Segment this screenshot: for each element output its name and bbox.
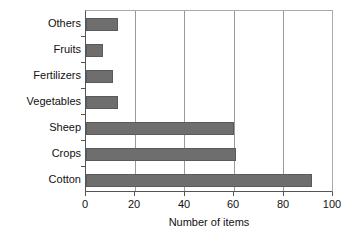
x-axis-tick-label-20: 20 (114, 198, 154, 211)
gridline-80 (283, 11, 284, 191)
bar-row-cotton (86, 167, 312, 193)
x-axis-title: Number of items (85, 216, 333, 229)
y-axis-tick-label-cotton: Cotton (3, 173, 81, 185)
bar-vegetables[interactable] (86, 96, 118, 109)
y-axis-tick-label-fertilizers: Fertilizers (3, 69, 81, 81)
plot-area (85, 10, 333, 192)
x-axis-tick-label-60: 60 (213, 198, 253, 211)
y-axis-tick-label-crops: Crops (3, 147, 81, 159)
bar-fertilizers[interactable] (86, 70, 113, 83)
x-axis-tick-mark-60 (233, 192, 234, 196)
bar-row-others (86, 11, 118, 37)
x-axis-tick-label-80: 80 (263, 198, 303, 211)
y-axis-tick-label-fruits: Fruits (3, 43, 81, 55)
bar-others[interactable] (86, 18, 118, 31)
x-axis-tick-label-0: 0 (65, 198, 105, 211)
bar-row-fruits (86, 37, 103, 63)
bar-row-sheep (86, 115, 234, 141)
y-axis-tick-label-others: Others (3, 17, 81, 29)
x-axis-tick-mark-40 (184, 192, 185, 196)
x-axis-tick-mark-0 (85, 192, 86, 196)
x-axis-tick-mark-100 (332, 192, 333, 196)
x-axis-tick-mark-80 (283, 192, 284, 196)
bar-chart-figure: Others Fruits Fertilizers Vegetables She… (0, 0, 362, 241)
x-axis-tick-label-100: 100 (312, 198, 352, 211)
bar-sheep[interactable] (86, 122, 234, 135)
x-axis-tick-label-40: 40 (164, 198, 204, 211)
bar-crops[interactable] (86, 148, 236, 161)
bar-row-vegetables (86, 89, 118, 115)
y-axis-tick-label-sheep: Sheep (3, 121, 81, 133)
bar-row-fertilizers (86, 63, 113, 89)
bar-cotton[interactable] (86, 174, 312, 187)
x-axis-tick-mark-20 (134, 192, 135, 196)
bar-row-crops (86, 141, 236, 167)
y-axis-tick-label-vegetables: Vegetables (3, 95, 81, 107)
bar-fruits[interactable] (86, 44, 103, 57)
y-axis-label-group: Others Fruits Fertilizers Vegetables She… (0, 10, 81, 192)
